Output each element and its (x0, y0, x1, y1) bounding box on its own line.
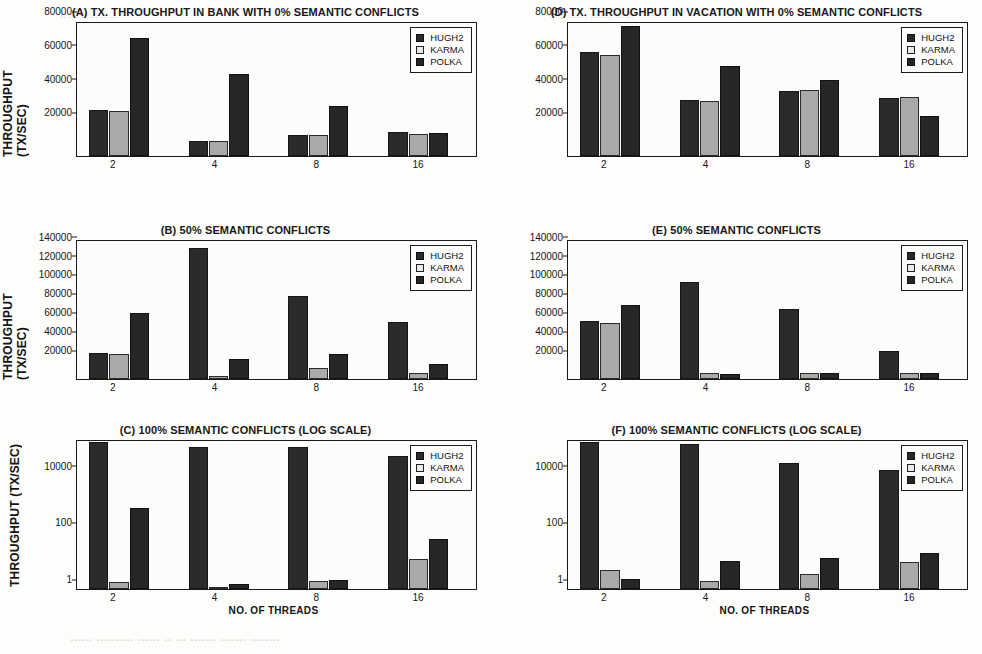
legend-label: POLKA (921, 56, 953, 68)
y-tick-label: 120000 (39, 250, 72, 261)
plot-area-e: 20000400006000080000100000120000140000HU… (497, 240, 968, 380)
bar-karma (409, 134, 428, 156)
bar-karma (900, 97, 919, 156)
bar-polka (130, 38, 149, 156)
y-tick-label: 20000 (44, 345, 72, 356)
y-tick-label: 80000 (535, 288, 563, 299)
legend-swatch-polka-icon (907, 476, 915, 484)
legend-label: KARMA (430, 462, 464, 474)
x-tick-label: 8 (804, 382, 810, 393)
bar-karma (900, 373, 919, 379)
legend-swatch-karma-icon (416, 264, 424, 272)
legend-item-karma: KARMA (907, 462, 955, 474)
y-tick-label: 100000 (530, 269, 563, 280)
chart-title-c: (C) 100% SEMANTIC CONFLICTS (LOG SCALE) (0, 418, 491, 436)
bar-hugh2 (779, 309, 798, 379)
bar-karma (309, 368, 328, 379)
bar-group (568, 241, 668, 379)
legend-label: KARMA (430, 44, 464, 56)
chart-panel-d: (D) TX. THROUGHPUT IN VACATION WITH 0% S… (491, 0, 982, 218)
bar-polka (130, 508, 149, 589)
legend-swatch-hugh2-icon (907, 452, 915, 460)
bar-hugh2 (680, 282, 699, 379)
bar-karma (309, 581, 328, 589)
x-axis-ticks-b: 24816 (70, 380, 477, 395)
x-axis-ticks-d: 24816 (561, 157, 968, 172)
bar-polka (920, 373, 939, 379)
legend-label: KARMA (921, 462, 955, 474)
x-axis-title-c: NO. OF THREADS (70, 605, 477, 616)
bar-group (668, 241, 768, 379)
legend-item-hugh2: HUGH2 (416, 32, 464, 44)
bar-hugh2 (189, 141, 208, 156)
y-axis-ticks-d: 20000400006000080000 (515, 22, 567, 157)
plot-area-c: THROUGHPUT (TX/SEC)110010000HUGH2KARMAPO… (6, 440, 477, 590)
chart-legend-b: HUGH2KARMAPOLKA (410, 245, 472, 291)
bar-group (768, 241, 868, 379)
x-tick-label: 8 (313, 382, 319, 393)
chart-panel-a: (A) TX. THROUGHPUT IN BANK WITH 0% SEMAN… (0, 0, 491, 218)
bar-hugh2 (388, 456, 407, 589)
bar-polka (820, 80, 839, 156)
x-axis-ticks-c: 24816 (70, 590, 477, 605)
legend-label: HUGH2 (430, 450, 463, 462)
legend-item-polka: POLKA (907, 274, 955, 286)
bar-hugh2 (879, 98, 898, 156)
legend-swatch-karma-icon (907, 464, 915, 472)
y-tick-label: 140000 (530, 231, 563, 242)
chart-title-e: (E) 50% SEMANTIC CONFLICTS (491, 218, 982, 236)
bar-hugh2 (879, 470, 898, 589)
bar-polka (329, 106, 348, 156)
bar-hugh2 (779, 91, 798, 156)
bar-hugh2 (388, 322, 407, 379)
y-tick-label: 100000 (39, 269, 72, 280)
legend-label: HUGH2 (430, 32, 463, 44)
legend-label: KARMA (921, 262, 955, 274)
x-tick-label: 2 (110, 382, 116, 393)
legend-swatch-polka-icon (416, 276, 424, 284)
legend-swatch-karma-icon (416, 46, 424, 54)
bar-karma (800, 373, 819, 379)
bar-karma (800, 574, 819, 589)
chart-panel-f: (F) 100% SEMANTIC CONFLICTS (LOG SCALE)1… (491, 418, 982, 654)
legend-swatch-hugh2-icon (416, 252, 424, 260)
bar-group (177, 23, 277, 156)
bar-karma (109, 582, 128, 589)
bar-group (768, 23, 868, 156)
bar-hugh2 (288, 135, 307, 156)
y-axis-ticks-c: 110010000 (24, 440, 76, 590)
y-tick-label: 60000 (535, 307, 563, 318)
y-tick-label: 10000 (535, 460, 563, 471)
x-tick-label: 8 (313, 592, 319, 603)
plot-frame-a: HUGH2KARMAPOLKA (76, 22, 477, 157)
bar-karma (409, 373, 428, 379)
bar-polka (720, 561, 739, 589)
legend-item-karma: KARMA (907, 44, 955, 56)
y-tick-label: 40000 (535, 326, 563, 337)
legend-swatch-karma-icon (416, 464, 424, 472)
legend-label: HUGH2 (921, 450, 954, 462)
x-tick-label: 8 (804, 592, 810, 603)
x-tick-label: 16 (903, 592, 914, 603)
bar-karma (600, 323, 619, 379)
bar-group (77, 241, 177, 379)
x-tick-label: 4 (703, 592, 709, 603)
bar-group (668, 23, 768, 156)
legend-label: POLKA (430, 274, 462, 286)
plot-area-f: 110010000HUGH2KARMAPOLKA (497, 440, 968, 590)
legend-item-karma: KARMA (416, 462, 464, 474)
bar-hugh2 (288, 447, 307, 589)
y-tick-label: 40000 (44, 73, 72, 84)
bar-karma (600, 55, 619, 156)
y-tick-label: 100 (546, 517, 563, 528)
bar-karma (700, 101, 719, 156)
legend-item-karma: KARMA (907, 262, 955, 274)
y-tick-label: 40000 (535, 73, 563, 84)
bar-karma (309, 135, 328, 156)
legend-item-polka: POLKA (416, 274, 464, 286)
y-tick-label: 20000 (535, 345, 563, 356)
legend-item-hugh2: HUGH2 (907, 450, 955, 462)
y-tick-label: 60000 (44, 307, 72, 318)
plot-frame-c: HUGH2KARMAPOLKA (76, 440, 477, 590)
chart-title-d: (D) TX. THROUGHPUT IN VACATION WITH 0% S… (491, 0, 982, 18)
